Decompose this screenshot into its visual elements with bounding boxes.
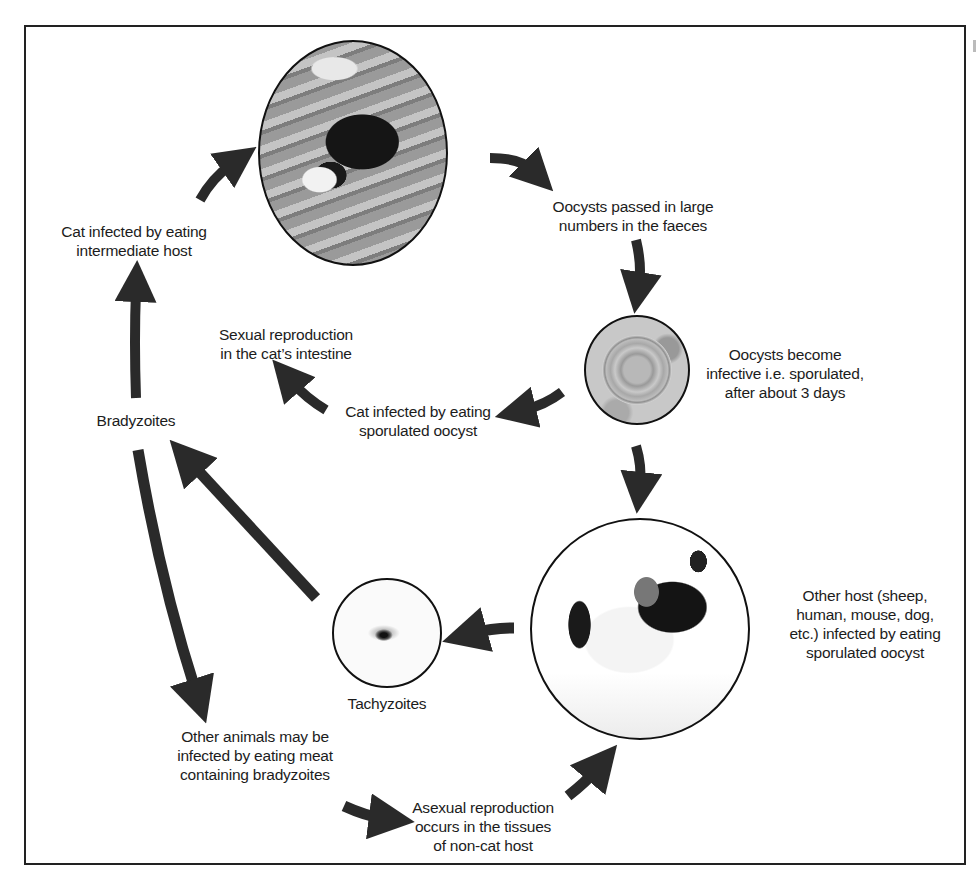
label-oocysts-become-infective: Oocysts become infective i.e. sporulated… [706,345,864,402]
label-asexual-reproduction: Asexual reproduction occurs in the tissu… [412,798,554,855]
label-line: Cat infected by eating [345,402,491,421]
label-oocysts-passed: Oocysts passed in large numbers in the f… [553,197,714,235]
label-line: intermediate host [61,241,207,260]
label-line: Cat infected by eating [61,222,207,241]
label-line: containing bradyzoites [177,765,333,784]
arrow-bradyzoites-down [138,450,196,692]
label-tachyzoites: Tachyzoites [348,694,427,713]
arrow-to-sexual-reproduction [292,382,326,410]
label-line: Oocysts become [706,345,864,364]
label-line: Sexual reproduction [219,325,353,344]
label-line: in the cat’s intestine [219,344,353,363]
cat-photo [258,40,448,266]
label-line: Other host (sheep, [789,586,940,605]
arrow-to-oocyst [636,240,640,284]
arrow-to-cat [200,164,232,200]
label-line: sporulated oocyst [345,421,491,440]
label-line: numbers in the faeces [553,216,714,235]
label-line: infective i.e. sporulated, [706,364,864,383]
arrow-to-asexual-reproduction [344,806,382,818]
mouse-photo [530,518,750,740]
label-line: after about 3 days [706,383,864,402]
label-cat-infected-intermediate: Cat infected by eating intermediate host [61,222,207,260]
oocyst-photo [584,315,690,425]
label-line: sporulated oocyst [789,643,940,662]
label-line: Other animals may be [177,727,333,746]
arrow-mouse-to-tachyzoite [474,628,514,633]
arrow-cat-to-oocysts-passed [490,158,532,170]
label-line: of non-cat host [412,836,554,855]
label-line: Asexual reproduction [412,798,554,817]
label-line: infected by eating meat [177,746,333,765]
arrow-bradyzoites-up [135,290,136,398]
label-line: etc.) infected by eating [789,624,940,643]
flow-arrows [0,0,976,886]
arrow-asexual-to-mouse [568,770,596,796]
arrow-oocyst-to-mouse [636,446,641,484]
arrow-tachyzoite-to-bradyzoites [192,464,316,598]
tachyzoite-photo [332,578,442,688]
label-line: Bradyzoites [97,411,176,430]
arrow-oocyst-to-cat-infected [524,392,562,410]
label-line: Oocysts passed in large [553,197,714,216]
label-cat-infected-oocyst: Cat infected by eating sporulated oocyst [345,402,491,440]
label-line: human, mouse, dog, [789,605,940,624]
label-bradyzoites: Bradyzoites [97,411,176,430]
label-other-animals: Other animals may be infected by eating … [177,727,333,784]
label-line: Tachyzoites [348,694,427,713]
label-other-host: Other host (sheep, human, mouse, dog, et… [789,586,940,662]
label-line: occurs in the tissues [412,817,554,836]
label-sexual-reproduction: Sexual reproduction in the cat’s intesti… [219,325,353,363]
